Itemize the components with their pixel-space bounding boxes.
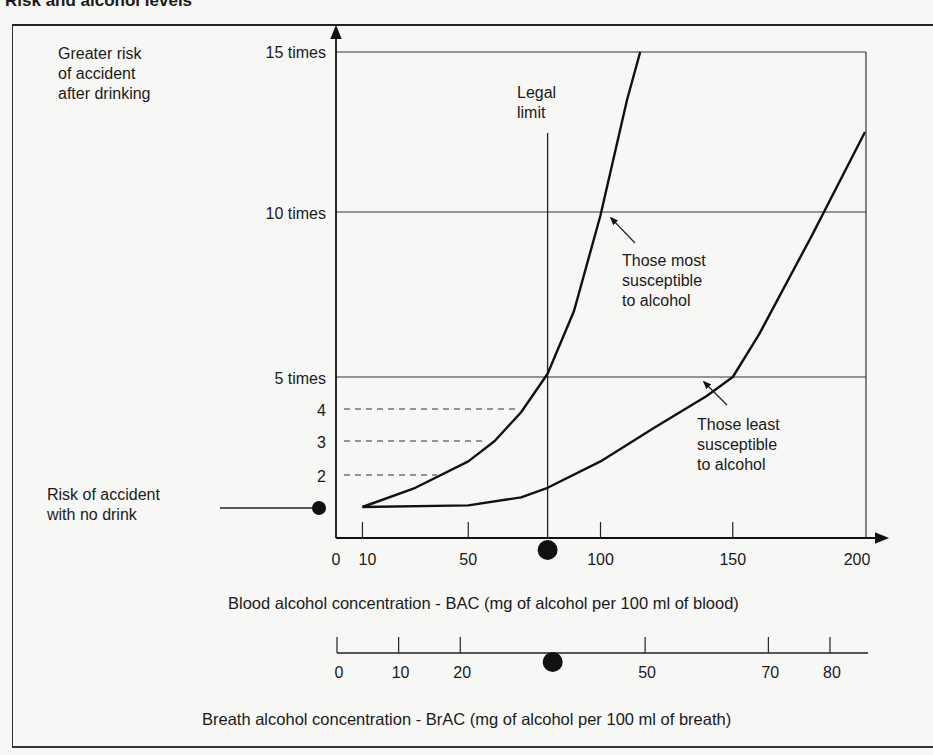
y-tick-label: 3 [317,434,326,451]
x-tick-label: 100 [587,551,614,568]
most-susceptible-label: Those most susceptible to alcohol [622,251,706,311]
brac-tick-label: 70 [761,664,779,681]
x-tick-label: 50 [459,551,477,568]
y-axis-title: Greater risk of accident after drinking [58,44,151,104]
least-annotation-arrow [704,382,727,405]
least-susceptible-label: Those least susceptible to alcohol [697,415,780,475]
no-drink-label: Risk of accident with no drink [47,485,160,525]
brac-tick-label: 0 [335,664,344,681]
grid-lines [336,52,866,538]
x-tick-label: 10 [359,551,377,568]
series-curves [362,52,865,507]
x-tick-label: 150 [719,551,746,568]
legal-limit-label: Legal limit [517,83,556,123]
brac-tick-label: 50 [638,664,656,681]
y-tick-label: 5 times [274,370,326,387]
legal-limit-dot-bac [538,540,558,560]
legal-limit-dot-brac [543,652,563,672]
brac-tick-label: 10 [392,664,410,681]
curve-most-susceptible [362,52,640,507]
baseline-dot [312,501,326,515]
bac-axis-title: Blood alcohol concentration - BAC (mg of… [228,593,739,613]
most-annotation-arrow [611,218,635,243]
curve-least-susceptible [362,132,865,507]
brac-tick-label: 80 [823,664,841,681]
axes [220,32,882,672]
y-tick-label: 2 [317,468,326,485]
brac-axis-title: Breath alcohol concentration - BrAC (mg … [202,709,731,729]
axis-labels: 15 times10 times5 times43201050100150200… [266,44,871,681]
y-tick-label: 10 times [266,205,326,222]
y-tick-label: 4 [317,402,326,419]
brac-tick-label: 20 [453,664,471,681]
y-tick-label: 15 times [266,44,326,61]
x-tick-label: 0 [332,551,341,568]
x-tick-label: 200 [844,551,871,568]
